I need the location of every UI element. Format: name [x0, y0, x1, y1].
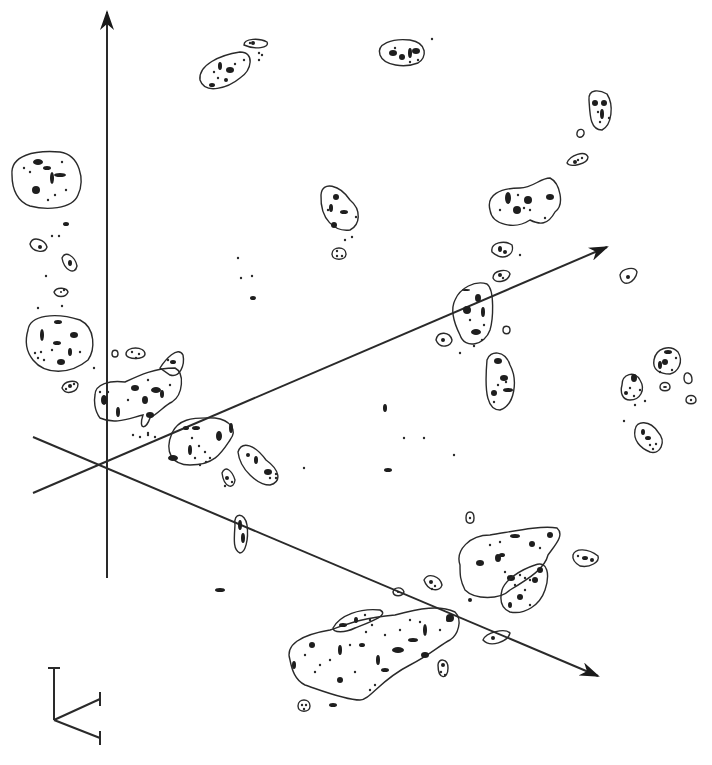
density-blob — [546, 194, 554, 200]
density-blob — [216, 431, 222, 441]
density-blob — [354, 617, 358, 623]
point-dot — [61, 305, 63, 307]
cluster-c21 — [684, 373, 692, 384]
density-blob — [225, 476, 229, 480]
cluster-c44 — [333, 610, 383, 632]
point-dot — [37, 307, 39, 309]
free-blob — [383, 404, 387, 412]
density-blob — [264, 469, 272, 475]
density-blob — [481, 307, 485, 317]
cluster-c06 — [577, 129, 584, 137]
free-blob — [468, 598, 472, 602]
cluster-c39 — [501, 564, 548, 613]
point-dot — [369, 689, 371, 691]
point-dot — [581, 157, 583, 159]
density-blob — [494, 358, 502, 364]
density-blob — [168, 455, 178, 461]
density-blob — [547, 532, 553, 538]
density-blob — [510, 534, 520, 538]
point-dot — [243, 59, 245, 61]
density-blob — [53, 341, 61, 345]
point-dot — [374, 684, 376, 686]
density-blob — [331, 222, 337, 228]
density-blob — [32, 186, 40, 194]
density-blob — [116, 407, 120, 417]
cluster-c14 — [503, 326, 510, 334]
density-blob — [513, 206, 521, 214]
cluster-c12 — [332, 248, 346, 259]
density-blob — [333, 194, 339, 200]
density-blob — [498, 246, 502, 252]
scale-arm-up — [54, 699, 100, 720]
point-dot — [194, 457, 196, 459]
point-dot — [524, 589, 526, 591]
point-dot — [644, 400, 646, 402]
point-dot — [502, 277, 504, 279]
lower-right-axis — [33, 437, 598, 676]
point-dot — [608, 117, 610, 119]
point-dot — [327, 209, 329, 211]
point-dot — [249, 42, 251, 44]
point-dot — [675, 357, 677, 359]
density-blob — [54, 173, 66, 177]
cluster-c27 — [26, 316, 95, 372]
cluster-c16 — [486, 353, 514, 410]
density-blob — [664, 350, 672, 354]
point-dot — [40, 351, 42, 353]
point-dot — [499, 209, 501, 211]
cluster-outline — [332, 248, 346, 259]
density-blob — [631, 374, 637, 382]
point-dot — [623, 420, 625, 422]
density-blob — [246, 453, 250, 457]
point-dot — [499, 541, 501, 543]
point-dot — [514, 584, 516, 586]
point-dot — [483, 324, 485, 326]
cluster-c30 — [126, 348, 145, 359]
cluster-outline — [289, 608, 459, 700]
density-blob — [573, 160, 577, 164]
point-dot — [659, 371, 661, 373]
point-dot — [51, 235, 53, 237]
density-blob — [471, 329, 481, 335]
density-blob — [389, 50, 397, 56]
cluster-outline — [30, 239, 47, 251]
cluster-c19 — [621, 374, 646, 406]
density-blob — [337, 677, 343, 683]
point-dot — [473, 345, 475, 347]
point-dot — [577, 159, 579, 161]
cluster-c18 — [654, 348, 681, 374]
point-dot — [444, 674, 446, 676]
cluster-c34 — [238, 445, 278, 485]
density-blob — [397, 591, 399, 593]
density-blob — [582, 556, 588, 560]
density-blob — [624, 391, 628, 395]
point-dot — [231, 481, 233, 483]
density-blob — [50, 172, 54, 184]
scale-arm-down — [54, 720, 100, 738]
density-blob — [600, 109, 604, 119]
point-dot — [305, 704, 307, 706]
point-dot — [544, 217, 546, 219]
point-dot — [394, 47, 396, 49]
cluster-c46 — [438, 660, 448, 677]
density-blob — [131, 385, 139, 391]
point-dot — [529, 209, 531, 211]
density-blob — [40, 329, 44, 341]
cluster-c01 — [12, 152, 81, 209]
density-blob — [392, 647, 404, 653]
point-dot — [539, 547, 541, 549]
cluster-c17 — [620, 268, 637, 283]
free-dot — [147, 432, 149, 434]
density-blob — [218, 62, 222, 70]
point-dot — [275, 473, 277, 475]
density-blob — [38, 245, 42, 249]
density-blob — [340, 210, 348, 214]
point-dot — [409, 61, 411, 63]
density-blob — [329, 204, 333, 212]
point-dot — [493, 401, 495, 403]
point-dot — [409, 619, 411, 621]
free-blob — [499, 553, 505, 557]
cluster-c41 — [424, 576, 442, 591]
density-blob — [43, 166, 51, 170]
free-blob — [63, 222, 69, 226]
